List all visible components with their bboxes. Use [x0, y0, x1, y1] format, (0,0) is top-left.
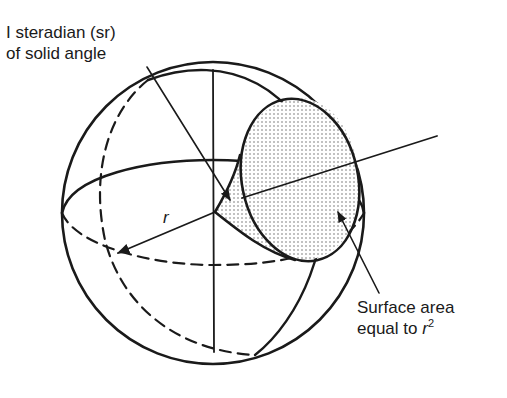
surface-area-label-line2: equal to r2: [357, 318, 454, 339]
surface-area-leader: [338, 212, 379, 293]
surface-area-prefix: equal to: [357, 319, 422, 338]
surface-area-exponent: 2: [428, 317, 434, 329]
vertical-axis: [213, 70, 214, 352]
steradian-label-line2: of solid angle: [6, 43, 116, 64]
steradian-leader: [147, 67, 230, 200]
radius-label: r: [163, 208, 169, 228]
steradian-label-line1: I steradian (sr): [6, 22, 116, 43]
surface-area-label: Surface area equal to r2: [357, 297, 454, 339]
solid-angle-cone: [215, 98, 359, 260]
steradian-label: I steradian (sr) of solid angle: [6, 22, 116, 64]
surface-area-label-line1: Surface area: [357, 297, 454, 318]
